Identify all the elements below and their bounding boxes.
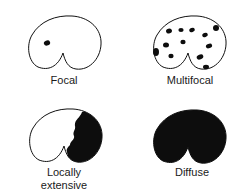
label-locally: Locally [47, 166, 81, 178]
multifocal-organ [153, 16, 226, 69]
diffuse-organ [154, 110, 226, 163]
label-diffuse: Diffuse [175, 166, 209, 178]
lesion-distribution-diagram [0, 0, 246, 196]
label-focal: Focal [51, 74, 78, 86]
locally-extensive-organ [30, 105, 110, 170]
label-multifocal: Multifocal [167, 74, 213, 86]
label-extensive: extensive [41, 179, 87, 191]
focal-organ [29, 16, 101, 69]
